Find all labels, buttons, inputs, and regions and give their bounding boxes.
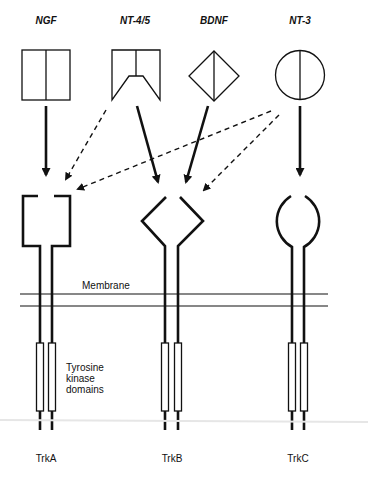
trkb-receptor-icon [142, 197, 203, 430]
bdnf-label: BDNF [200, 15, 228, 26]
nt45-to-trka-arrow [66, 110, 106, 179]
nt3-label: NT-3 [289, 15, 311, 26]
trk-receptor-diagram [0, 0, 368, 478]
nt45-label: NT-4/5 [120, 15, 150, 26]
bdnf-ligand-icon [189, 51, 239, 101]
kinase-label-line3: domains [66, 384, 104, 395]
nt45-ligand-icon [112, 50, 160, 100]
nt3-to-trka-arrow [78, 111, 271, 189]
primary-binding-arrows [46, 106, 300, 182]
ngf-ligand-icon [22, 50, 70, 100]
bdnf-to-trkb-arrow [186, 106, 208, 182]
kinase-label-line2: kinase [66, 373, 95, 384]
membrane-lines [20, 294, 328, 306]
trkc-receptor-icon [277, 196, 319, 430]
trkc-label: TrkC [287, 453, 308, 464]
kinase-label-line1: Tyrosine [66, 362, 104, 373]
trkb-label: TrkB [162, 453, 183, 464]
nt3-to-trkb-arrow [204, 115, 279, 190]
nt3-ligand-icon [276, 51, 325, 100]
scan-separator [0, 420, 368, 422]
ngf-label: NGF [35, 15, 56, 26]
trka-receptor-icon [23, 196, 70, 430]
secondary-binding-arrows [66, 110, 279, 190]
trka-label: TrkA [36, 453, 57, 464]
nt45-to-trkb-arrow [137, 106, 158, 182]
membrane-label: Membrane [82, 280, 130, 291]
